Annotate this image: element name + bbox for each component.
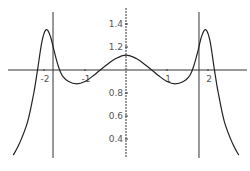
y-tick-label: 1.4 <box>109 19 124 29</box>
y-tick-label: 1.2 <box>109 42 123 52</box>
y-tick-labels: 1.41.20.80.60.4 <box>109 19 128 144</box>
x-tick-label: 2 <box>206 74 212 84</box>
y-tick-label: 0.6 <box>109 111 124 121</box>
y-tick-label: 0.4 <box>109 134 124 144</box>
x-tick-label: -2 <box>41 74 50 84</box>
function-plot: -2-112 1.41.20.80.60.4 <box>0 0 250 171</box>
y-tick-label: 0.8 <box>109 88 124 98</box>
